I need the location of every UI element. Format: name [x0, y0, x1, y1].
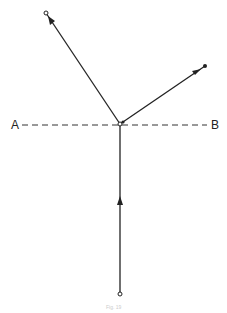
vector-diagram [0, 0, 227, 313]
label-b: B [211, 119, 219, 131]
bottom-open-circle [118, 292, 122, 296]
arrowhead-up-icon [117, 196, 123, 205]
upper-right-vector [120, 66, 205, 124]
center-open-circle [118, 122, 122, 126]
upper-left-vector [46, 13, 120, 124]
arrowhead-upper-left-icon [48, 16, 55, 25]
label-a: A [11, 119, 19, 131]
figure-caption: Fig. 19 [106, 305, 121, 310]
center-filled-dot [121, 120, 124, 123]
top-left-open-circle [44, 11, 48, 15]
top-right-filled-dot [203, 64, 207, 68]
